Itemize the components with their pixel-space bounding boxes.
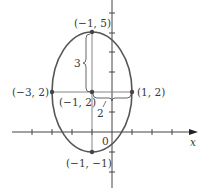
point-label-left: (−3, 2) [12, 87, 49, 98]
x-axis-arrow-icon [189, 129, 198, 135]
point-label-bottom: (−1, −1) [66, 158, 112, 169]
dimension-label-vertical: 3 [74, 58, 81, 69]
point-label-top: (−1, 5) [74, 18, 111, 29]
ellipse-figure: (−1, 5) (−1, 2) (−3, 2) (1, 2) (−1, −1) … [0, 0, 207, 196]
vertical-brace [83, 34, 90, 92]
origin-label: 0 [102, 136, 109, 147]
point-right [130, 90, 134, 94]
point-left [50, 90, 54, 94]
point-bottom [90, 150, 94, 154]
point-top [90, 30, 94, 34]
point-label-center: (−1, 2) [59, 97, 96, 108]
point-center [90, 90, 94, 94]
dimension-label-horizontal: 2 [97, 108, 104, 119]
x-axis-label: x [190, 137, 196, 148]
point-label-right: (1, 2) [137, 87, 165, 98]
